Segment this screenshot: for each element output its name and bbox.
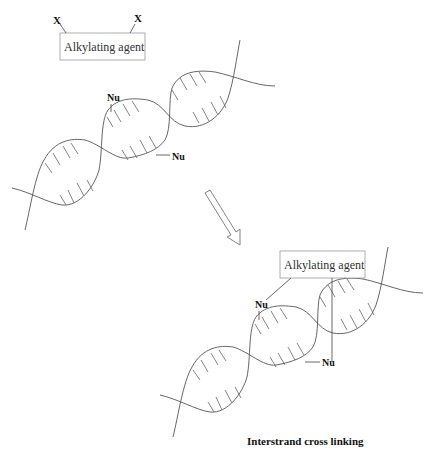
alkylating-agent-after: Alkylating agent	[266, 251, 365, 362]
nu-label-top: Nu	[107, 92, 120, 103]
nu-label-bottom-after: Nu	[322, 357, 335, 368]
caption: Interstrand cross linking	[247, 435, 364, 447]
nucleophile-labels-after: Nu Nu	[255, 299, 335, 368]
agent-box-label: Alkylating agent	[64, 40, 145, 54]
nu-label-bottom: Nu	[172, 151, 185, 162]
nu-label-top-after: Nu	[255, 299, 268, 310]
leaving-group-x-left: X	[53, 14, 61, 26]
agent-box-label-after: Alkylating agent	[284, 258, 365, 272]
dna-alkylation-diagram: Alkylating agent X X Nu Nu Alkylating ag…	[0, 0, 440, 457]
alkylating-agent-before: Alkylating agent X X	[53, 12, 145, 60]
leaving-group-x-right: X	[134, 12, 142, 24]
dna-helix-before	[12, 40, 275, 230]
reaction-arrow-icon	[205, 190, 240, 245]
